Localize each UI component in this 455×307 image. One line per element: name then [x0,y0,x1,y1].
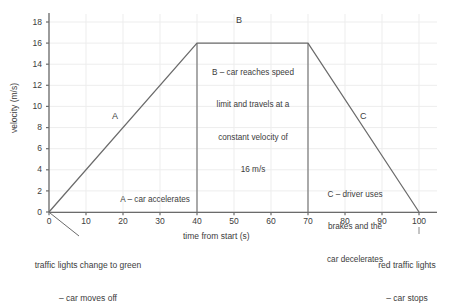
y-tick-label-10: 10 [24,101,42,111]
y-tick-label-16: 16 [24,38,42,48]
y-tick-label-8: 8 [24,122,42,132]
segment-letter-c: C [360,111,367,122]
y-tick-label-4: 4 [24,164,42,174]
segment-b-note-line-2: limit and travels at a [198,100,308,111]
x-tick-label-100: 100 [407,216,431,226]
end-event-caption-line-1: red traffic lights [361,260,453,271]
y-tick-label-6: 6 [24,143,42,153]
y-tick-label-12: 12 [24,80,42,90]
segment-letter-a: A [112,111,118,122]
segment-c-note-line-1: C – driver uses [311,190,399,201]
x-tick-label-50: 50 [222,216,246,226]
segment-b-note-line-3: constant velocity of [198,133,308,144]
start-event-caption-line-2: – car moves off [2,293,174,304]
start-event-caption: traffic lights change to green – car mov… [2,238,174,307]
segment-c-note-line-2: brakes and the [311,222,399,233]
clipped-footer-text [10,262,230,270]
y-tick-label-2: 2 [24,186,42,196]
segment-b-note-line-1: B – car reaches speed [198,68,308,79]
y-axis-title: velocity (m/s) [9,73,19,143]
segment-b-note: B – car reaches speed limit and travels … [198,46,308,198]
end-event-caption: red traffic lights – car stops [361,238,453,307]
end-event-caption-line-2: – car stops [361,293,453,304]
x-axis-title: time from start (s) [183,231,250,241]
y-tick-label-18: 18 [24,17,42,27]
segment-b-note-line-4: 16 m/s [198,165,308,176]
segment-letter-b: B [236,15,242,26]
y-tick-label-14: 14 [24,59,42,69]
x-tick-label-60: 60 [259,216,283,226]
x-tick-label-0: 0 [37,216,61,226]
